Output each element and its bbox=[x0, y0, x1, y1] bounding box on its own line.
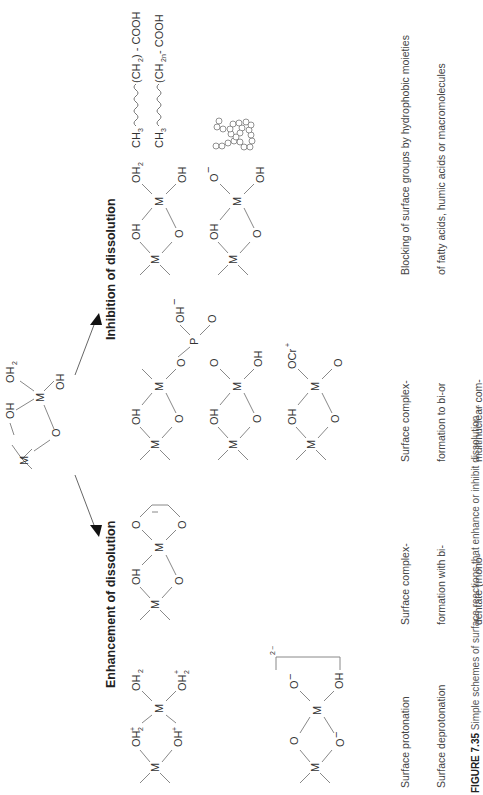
structure-phosphate-complex: M OH O M O P OH − O bbox=[130, 299, 218, 460]
description-cation: Surface complex- formation to bi-or mult… bbox=[374, 379, 483, 462]
svg-text:OH: OH bbox=[176, 166, 188, 183]
svg-text:P: P bbox=[188, 338, 200, 345]
svg-text:OH: OH bbox=[130, 730, 142, 747]
svg-text:−: − bbox=[269, 646, 276, 650]
fatty-acid-chain-2: CH 3 (CH 2 n - COOH bbox=[153, 14, 167, 148]
label-oh: OH bbox=[4, 402, 16, 419]
enhancement-heading: Enhancement of dissolution bbox=[104, 521, 118, 688]
svg-text:M: M bbox=[149, 440, 161, 449]
svg-text:OH: OH bbox=[130, 568, 142, 585]
structure-protonation: M OH + 2 OH + M OH 2 OH + 2 bbox=[129, 669, 190, 783]
structure-phosphate-lower: M OH O M O OH bbox=[208, 350, 264, 460]
svg-text:M: M bbox=[149, 255, 161, 264]
inhibition-heading: Inhibition of dissolution bbox=[104, 198, 118, 340]
svg-text:M: M bbox=[153, 382, 165, 391]
svg-text:O: O bbox=[251, 414, 263, 423]
svg-text:M: M bbox=[149, 763, 161, 772]
svg-text:M: M bbox=[153, 704, 165, 713]
structure-ligand-complex: M OH O M O O bbox=[130, 505, 188, 620]
svg-text:O: O bbox=[208, 173, 220, 182]
svg-text:(CH: (CH bbox=[153, 63, 165, 83]
svg-text:OH: OH bbox=[208, 223, 220, 240]
svg-text:O: O bbox=[175, 358, 187, 367]
arrowhead-icon bbox=[90, 313, 102, 325]
svg-text:OH: OH bbox=[176, 674, 188, 691]
inhibition-arrow bbox=[75, 313, 102, 375]
svg-text:M: M bbox=[227, 255, 239, 264]
svg-text:2: 2 bbox=[137, 162, 144, 166]
svg-text:CH: CH bbox=[153, 132, 165, 148]
svg-text:n: n bbox=[160, 54, 167, 58]
svg-text:O: O bbox=[288, 736, 300, 745]
svg-text:OH: OH bbox=[252, 350, 264, 367]
svg-text:2: 2 bbox=[269, 651, 276, 655]
svg-text:O: O bbox=[173, 576, 185, 585]
structure-blocked-ominus: M OH O M O − OH bbox=[202, 166, 266, 275]
svg-text:OH: OH bbox=[254, 166, 266, 183]
svg-text:M: M bbox=[309, 763, 321, 772]
svg-text:3: 3 bbox=[160, 128, 167, 132]
svg-text:M: M bbox=[149, 600, 161, 609]
svg-text:M: M bbox=[311, 706, 323, 715]
description-ligand: Surface complex- formation with bi- dent… bbox=[374, 543, 483, 625]
svg-text:O: O bbox=[130, 520, 142, 529]
svg-text:M: M bbox=[153, 197, 165, 206]
caption-label: FIGURE 7.35 bbox=[470, 733, 481, 793]
svg-text:M: M bbox=[153, 543, 165, 552]
svg-text:M: M bbox=[231, 197, 243, 206]
svg-text:OH: OH bbox=[130, 223, 142, 240]
svg-text:O: O bbox=[329, 414, 341, 423]
svg-text:OH: OH bbox=[333, 672, 345, 689]
svg-text:O: O bbox=[173, 414, 185, 423]
label-oxygen: O bbox=[50, 428, 62, 437]
label-metal: M bbox=[34, 393, 46, 402]
svg-text:−: − bbox=[168, 299, 180, 305]
svg-text:OH: OH bbox=[130, 674, 142, 691]
structure-deprotonation: M O O − M O − OH 2 − bbox=[269, 646, 346, 783]
svg-text:2: 2 bbox=[137, 669, 144, 673]
center-structure: OH M M O OH 2 OH bbox=[4, 361, 66, 469]
description-blocking: Blocking of surface groups by hydrophobi… bbox=[374, 35, 472, 275]
macromolecule-bead-icon bbox=[213, 118, 255, 150]
svg-text:OH: OH bbox=[130, 166, 142, 183]
caption-text: Simple schemes of surface reactions that… bbox=[470, 404, 481, 733]
label-metal: M bbox=[18, 456, 30, 465]
svg-text:OCr: OCr bbox=[286, 349, 298, 370]
svg-text:CH: CH bbox=[130, 132, 142, 148]
svg-text:OH: OH bbox=[174, 306, 186, 323]
svg-text:O: O bbox=[206, 314, 218, 323]
svg-text:2: 2 bbox=[137, 727, 144, 731]
svg-text:+: + bbox=[171, 727, 178, 731]
svg-text:M: M bbox=[231, 382, 243, 391]
svg-text:M: M bbox=[227, 440, 239, 449]
svg-text:OH: OH bbox=[208, 408, 220, 425]
svg-text:2: 2 bbox=[183, 670, 190, 674]
svg-text:+: + bbox=[173, 670, 180, 674]
svg-text:−: − bbox=[330, 732, 342, 738]
arrowhead-icon bbox=[90, 525, 102, 537]
figure-diagram: OH M M O OH 2 OH Enhancement of dissolut… bbox=[0, 0, 483, 795]
svg-text:O: O bbox=[251, 229, 263, 238]
svg-text:OH: OH bbox=[130, 408, 142, 425]
svg-text:2: 2 bbox=[137, 58, 144, 62]
structure-cr-complex: M OH O M OCr + O bbox=[284, 343, 344, 460]
svg-text:M: M bbox=[309, 382, 321, 391]
description-protonation: Surface protonation Surface deprotonatio… bbox=[374, 685, 472, 788]
svg-text:) - COOH: ) - COOH bbox=[130, 12, 142, 58]
label-oh: OH bbox=[54, 373, 66, 390]
fatty-acid-chain-1: CH 3 (CH 2 ) - COOH bbox=[130, 12, 144, 148]
svg-text:2: 2 bbox=[11, 361, 18, 365]
svg-text:O: O bbox=[173, 229, 185, 238]
svg-text:O: O bbox=[288, 680, 300, 689]
svg-text:−: − bbox=[284, 674, 296, 680]
svg-text:OH: OH bbox=[286, 408, 298, 425]
svg-text:+: + bbox=[129, 727, 136, 731]
svg-text:2: 2 bbox=[160, 58, 167, 62]
svg-text:M: M bbox=[305, 440, 317, 449]
svg-text:(CH: (CH bbox=[130, 63, 142, 83]
svg-text:- COOH: - COOH bbox=[153, 14, 165, 54]
svg-text:−: − bbox=[202, 167, 214, 173]
svg-text:+: + bbox=[284, 343, 291, 347]
label-oh2: OH bbox=[4, 366, 16, 383]
svg-text:3: 3 bbox=[137, 128, 144, 132]
